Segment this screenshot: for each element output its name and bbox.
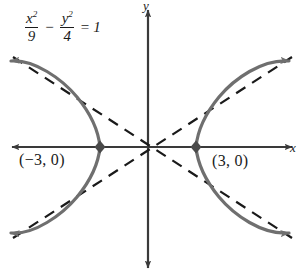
equation: x2 9 − y2 4 = 1 [22, 6, 142, 48]
equation-right-hand-side: 1 [93, 20, 101, 35]
equation-first-numerator: x2 [23, 10, 40, 27]
equation-second-numerator: y2 [59, 10, 76, 27]
left-branch-upper [11, 61, 100, 147]
equation-first-denominator: 9 [25, 27, 39, 44]
right-branch-upper [196, 61, 289, 147]
left-vertex-marker [95, 141, 106, 154]
right-vertex-label: (3, 0) [212, 152, 248, 170]
hyperbola-figure: x2 9 − y2 4 = 1 x y (−3, 0) (3, 0) [0, 0, 304, 275]
x-axis-label: x [290, 140, 296, 156]
equation-first-num-exponent: 2 [33, 9, 38, 19]
equation-second-num-exponent: 2 [68, 9, 73, 19]
equation-second-denominator: 4 [60, 27, 74, 44]
right-vertex-marker [191, 141, 202, 154]
equation-minus-operator: − [45, 20, 53, 35]
y-axis-label: y [143, 0, 149, 14]
equation-second-fraction: y2 4 [59, 10, 76, 44]
left-vertex-label: (−3, 0) [19, 151, 65, 169]
equation-first-num-base: x [26, 10, 33, 26]
equation-equals-sign: = [81, 20, 89, 35]
equation-first-fraction: x2 9 [23, 10, 40, 44]
